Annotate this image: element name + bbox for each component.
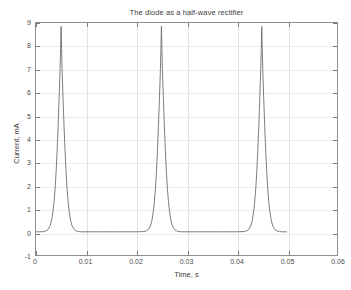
- y-tick-label: 9: [27, 19, 31, 26]
- y-tick-mark: [36, 234, 40, 235]
- y-tick-mark: [333, 93, 337, 94]
- x-tick-mark: [137, 23, 138, 27]
- y-tick-label: 2: [27, 182, 31, 189]
- y-tick-label: -1: [25, 253, 31, 260]
- x-tick-mark: [238, 251, 239, 255]
- x-tick-mark: [87, 23, 88, 27]
- y-tick-label: 6: [27, 89, 31, 96]
- y-tick-mark: [36, 210, 40, 211]
- x-tick-mark: [289, 23, 290, 27]
- plot-area: [35, 22, 338, 256]
- y-tick-mark: [333, 70, 337, 71]
- x-tick-mark: [137, 251, 138, 255]
- y-tick-mark: [333, 187, 337, 188]
- x-tick-mark: [289, 251, 290, 255]
- x-tick-label: 0.02: [129, 258, 143, 265]
- x-tick-label: 0.04: [230, 258, 244, 265]
- x-tick-mark: [188, 251, 189, 255]
- x-tick-label: 0.01: [79, 258, 93, 265]
- y-tick-label: 5: [27, 112, 31, 119]
- y-tick-mark: [36, 93, 40, 94]
- y-tick-mark: [36, 140, 40, 141]
- y-tick-mark: [36, 163, 40, 164]
- x-tick-mark: [87, 251, 88, 255]
- y-tick-mark: [36, 117, 40, 118]
- y-axis-title: Current, mA: [12, 114, 21, 174]
- x-tick-label: 0.06: [331, 258, 345, 265]
- y-tick-mark: [333, 163, 337, 164]
- y-tick-mark: [36, 187, 40, 188]
- y-tick-label: 4: [27, 136, 31, 143]
- x-tick-mark: [238, 23, 239, 27]
- y-tick-mark: [36, 70, 40, 71]
- y-tick-mark: [333, 140, 337, 141]
- chart-title: The diode as a half-wave rectifier: [35, 8, 338, 17]
- y-tick-mark: [333, 210, 337, 211]
- data-trace-svg: [36, 23, 337, 255]
- y-tick-mark: [333, 46, 337, 47]
- y-tick-label: 8: [27, 42, 31, 49]
- y-tick-label: 1: [27, 206, 31, 213]
- series-line-diode-current: [36, 26, 287, 231]
- x-tick-mark: [36, 251, 37, 255]
- y-tick-mark: [36, 46, 40, 47]
- y-tick-mark: [333, 23, 337, 24]
- y-tick-mark: [36, 23, 40, 24]
- y-tick-mark: [333, 117, 337, 118]
- y-tick-mark: [333, 234, 337, 235]
- figure-canvas: The diode as a half-wave rectifier 00.01…: [0, 0, 351, 290]
- x-tick-label: 0.05: [281, 258, 295, 265]
- y-tick-label: 7: [27, 65, 31, 72]
- x-tick-label: 0: [33, 258, 37, 265]
- y-tick-label: 0: [27, 229, 31, 236]
- x-tick-mark: [188, 23, 189, 27]
- y-tick-label: 3: [27, 159, 31, 166]
- x-axis-title: Time, s: [35, 270, 338, 279]
- x-tick-label: 0.03: [180, 258, 194, 265]
